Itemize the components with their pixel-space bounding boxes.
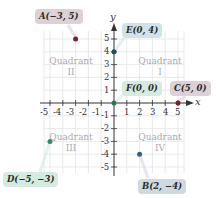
x-tick: 5 bbox=[175, 108, 180, 117]
y-tick: 1 bbox=[104, 86, 109, 95]
point-d-label: D(−5, −3) bbox=[3, 172, 58, 187]
x-tick: -3 bbox=[66, 108, 74, 117]
point-b-label: B(2, −4) bbox=[138, 179, 186, 194]
point-e bbox=[112, 49, 117, 54]
x-tick: -5 bbox=[40, 108, 48, 117]
x-tick: -2 bbox=[79, 108, 87, 117]
x-tick: 2 bbox=[137, 108, 142, 117]
y-tick: 2 bbox=[104, 73, 109, 82]
point-f-label: F(0, 0) bbox=[122, 81, 162, 96]
y-tick: -1 bbox=[101, 111, 109, 120]
point-c bbox=[176, 101, 181, 106]
y-axis-arrow-icon bbox=[111, 23, 117, 31]
y-tick: -4 bbox=[101, 150, 109, 159]
point-f bbox=[112, 101, 117, 106]
y-tick: 5 bbox=[104, 34, 109, 43]
x-axis-arrow-icon bbox=[186, 100, 194, 106]
x-tick: -1 bbox=[92, 108, 100, 117]
y-tick: -5 bbox=[101, 163, 109, 172]
x-tick: 4 bbox=[163, 108, 168, 117]
y-tick: -3 bbox=[101, 137, 109, 146]
point-e-label: E(0, 4) bbox=[122, 23, 162, 38]
x-tick: 3 bbox=[150, 108, 155, 117]
x-axis-label: x bbox=[195, 96, 201, 107]
quadrant-iv-label: QuadrantIV bbox=[135, 132, 185, 154]
x-tick: -4 bbox=[53, 108, 61, 117]
y-tick: 3 bbox=[104, 60, 109, 69]
point-a-label: A(−3, 5) bbox=[35, 9, 83, 24]
point-a bbox=[73, 37, 78, 42]
y-tick: 4 bbox=[104, 47, 109, 56]
point-c-label: C(5, 0) bbox=[170, 81, 211, 96]
quadrant-i-label: QuadrantI bbox=[135, 56, 185, 78]
quadrant-ii-label: QuadrantII bbox=[46, 56, 96, 78]
quadrant-iii-label: QuadrantIII bbox=[46, 132, 96, 154]
y-tick: -2 bbox=[101, 124, 109, 133]
x-tick: 1 bbox=[124, 108, 129, 117]
y-axis-label: y bbox=[110, 11, 116, 22]
